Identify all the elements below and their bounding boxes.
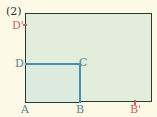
label-b: B: [76, 104, 84, 115]
inner-rectangle-abcd: [25, 63, 80, 103]
label-d: D: [15, 58, 24, 69]
label-c: C: [79, 57, 87, 68]
label-d-prime: D': [12, 20, 24, 31]
segment-dc: [25, 63, 80, 65]
label-b-prime: B': [130, 104, 141, 115]
label-a: A: [21, 104, 29, 115]
segment-cb: [79, 63, 81, 103]
figure-number: (2): [6, 6, 22, 17]
